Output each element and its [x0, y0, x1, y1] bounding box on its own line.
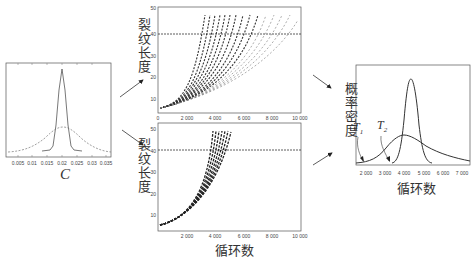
right-density-plot: 概率密度 2 000 3 000 4 000 5 000 6 000 7 000… [0, 0, 475, 260]
right-xlabel: 循环数 [397, 178, 436, 197]
svg-text:5 000: 5 000 [418, 170, 431, 176]
svg-text:6 000: 6 000 [437, 170, 450, 176]
svg-text:2 000: 2 000 [360, 170, 373, 176]
svg-text:4 000: 4 000 [398, 170, 411, 176]
t2-label: T2 [377, 118, 387, 134]
right-plot-svg: 2 000 3 000 4 000 5 000 6 000 7 000 [0, 0, 475, 260]
svg-text:3 000: 3 000 [379, 170, 392, 176]
t1-label: T1 [353, 120, 363, 136]
svg-text:7 000: 7 000 [456, 170, 469, 176]
